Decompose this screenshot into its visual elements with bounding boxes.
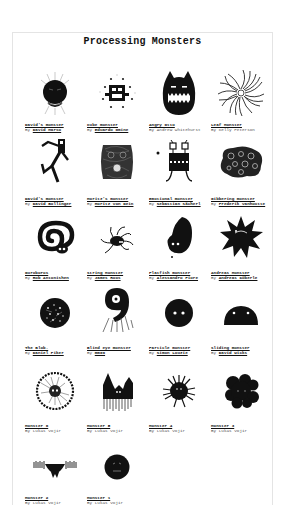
author-link[interactable]: Sebastian Sächerl [157,201,201,206]
author-name: By Lukas Vojir [87,428,149,433]
round-two-eye-monster-icon[interactable] [149,285,209,340]
one-eye-nine-monster-icon[interactable] [87,281,147,336]
dancing-stick-monster-icon[interactable] [25,134,85,189]
author-link[interactable]: Daniel Piker [33,350,64,355]
bubble-cluster-monster-icon[interactable] [211,134,271,189]
author-link[interactable]: Alessandro Fiore [157,275,198,280]
author-link[interactable]: Moritz von Dein [95,201,134,206]
spider-string-monster-icon[interactable] [87,211,147,266]
lumpy-block-monster-icon[interactable] [211,363,271,418]
author-name: By Lukas Vojir [25,428,87,433]
coiled-snake-monster-icon[interactable] [25,211,85,266]
page-frame: Processing Monsters David's monster By D… [12,32,273,505]
cube-robot-monster-icon[interactable] [87,65,147,120]
hairy-circle-monster-icon[interactable] [25,363,85,418]
winged-bar-monster-icon[interactable] [25,441,85,496]
flatfish-blob-monster-icon[interactable] [149,209,209,264]
author-name: By Lukas Vojir [25,500,87,505]
spiral-leaf-monster-icon[interactable] [211,65,271,120]
author-link[interactable]: Rob Antonishen [33,275,69,280]
star-burst-monster-icon[interactable] [211,209,271,264]
author-link[interactable]: David Wicks [219,350,247,355]
round-face-monster-icon[interactable] [87,439,147,494]
author-name: By Lukas Vojir [211,428,273,433]
author-link[interactable]: David Marso [33,127,61,132]
page-title: Processing Monsters [13,36,272,47]
author-name: By Lukas Vojir [149,428,211,433]
robot-legs-monster-icon[interactable] [149,134,209,189]
author-link[interactable]: David Bollinger [33,201,72,206]
round-spiky-monster-icon[interactable] [25,65,85,120]
author-link[interactable]: James Roos [95,275,121,280]
dome-sliding-monster-icon[interactable] [211,287,271,342]
speckled-blob-monster-icon[interactable] [25,285,85,340]
author-name: By Andrew Whitehurst [149,127,211,132]
author-name: By Kelly Peterson [211,127,273,132]
author-link[interactable]: Eduardo Omine [95,127,129,132]
scribble-face-monster-icon[interactable] [87,134,147,189]
author-link[interactable]: mm09 [95,350,105,355]
author-link[interactable]: Frederik Vanhoutte [219,201,265,206]
author-link[interactable]: Andreas Köberle [219,275,258,280]
author-link[interactable]: Simon Louzie [157,350,188,355]
horned-angry-monster-icon[interactable] [149,65,209,120]
author-name: By Lukas Vojir [87,500,149,505]
castle-spire-monster-icon[interactable] [87,363,147,418]
fuzzy-tree-monster-icon[interactable] [149,363,209,418]
